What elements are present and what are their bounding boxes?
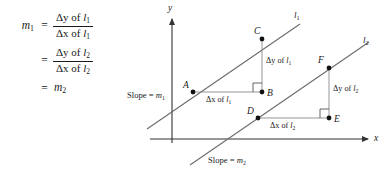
slope-m2-label: Slope = m2 — [208, 156, 246, 166]
point-f-label: F — [318, 56, 324, 66]
delta-x-l2-label: Δx of l2 — [270, 122, 295, 131]
slope-m1-label: Slope = m1 — [127, 91, 165, 101]
point-a-marker — [191, 90, 196, 95]
delta-y-l1-label: Δy of l1 — [266, 57, 291, 66]
delta-x-l1-label: Δx of l1 — [206, 96, 231, 105]
point-b-marker — [260, 90, 265, 95]
line-l2-label: l2 — [363, 36, 369, 46]
point-f-marker — [327, 66, 332, 71]
point-e-label: E — [334, 115, 340, 125]
line-l1-label: l1 — [294, 11, 300, 21]
point-e-marker — [327, 116, 332, 121]
point-d-marker — [256, 116, 261, 121]
diagram-svg — [0, 0, 386, 191]
y-axis-label: y — [168, 4, 172, 14]
delta-y-l2-label: Δy of l2 — [333, 85, 358, 94]
coordinate-diagram: y x l1 l2 A B C D E F Δx of l1 Δy of l1 … — [0, 0, 386, 191]
point-c-marker — [260, 37, 265, 42]
x-axis-label: x — [374, 134, 378, 144]
point-b-label: B — [267, 89, 273, 99]
point-a-label: A — [183, 81, 189, 91]
figure-page: m1 = Δy of l1 Δx of l1 = Δy of l2 Δx of … — [0, 0, 386, 191]
point-d-label: D — [247, 107, 254, 117]
line-l1 — [147, 24, 300, 129]
point-c-label: C — [254, 27, 260, 37]
